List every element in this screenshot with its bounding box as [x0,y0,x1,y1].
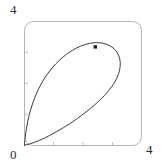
plot-figure: 4 0 4 [0,0,163,165]
y-axis-ticks [25,52,29,115]
origin-label: 0 [10,148,17,161]
x-axis-max-label: 4 [146,143,153,156]
y-axis-max-label: 4 [10,3,17,16]
curve-point-marker [94,45,97,48]
plot-canvas [0,0,163,165]
curve-loop [24,43,120,146]
plot-frame [25,22,142,146]
x-axis-ticks [54,142,113,146]
